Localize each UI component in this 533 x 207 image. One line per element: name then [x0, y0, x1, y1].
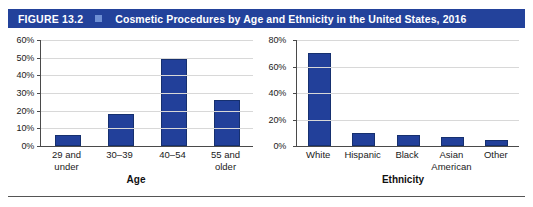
figure-number: FIGURE 13.2 — [18, 13, 83, 25]
y-axis-tick — [37, 40, 41, 41]
y-tick-label: 0% — [273, 141, 286, 151]
y-axis-tick — [37, 75, 41, 76]
chart-age: 0%10%20%30%40%50%60% 29 and under30–3940… — [10, 34, 260, 189]
y-axis-tick — [293, 93, 297, 94]
bar[interactable] — [352, 133, 375, 146]
y-tick-label: 10% — [17, 123, 34, 133]
figure-header: FIGURE 13.2 Cosmetic Procedures by Age a… — [8, 9, 525, 28]
y-tick-label: 40% — [269, 88, 286, 98]
y-tick-label: 20% — [17, 106, 34, 116]
y-tick-label: 40% — [17, 70, 34, 80]
y-axis-tick — [37, 93, 41, 94]
y-tick-label: 80% — [269, 35, 286, 45]
gridline — [41, 128, 253, 129]
y-axis-tick — [293, 67, 297, 68]
gridline — [41, 93, 253, 94]
bar[interactable] — [161, 59, 187, 146]
bar[interactable] — [55, 135, 81, 146]
x-axis-title-age: Age — [30, 174, 242, 185]
bar[interactable] — [441, 137, 464, 146]
chart-ethnicity: 0%20%40%60%80% WhiteHispanicBlackAsian A… — [262, 34, 528, 189]
gridline — [41, 75, 253, 76]
bar[interactable] — [397, 135, 420, 146]
y-tick-label: 20% — [269, 115, 286, 125]
y-axis-tick — [293, 40, 297, 41]
figure-title: Cosmetic Procedures by Age and Ethnicity… — [115, 13, 466, 25]
y-tick-label: 50% — [17, 53, 34, 63]
plot-area-ethnicity — [296, 40, 519, 147]
plot-area-age — [40, 40, 253, 147]
y-axis-tick — [37, 111, 41, 112]
gridline — [41, 40, 253, 41]
gridline — [297, 93, 519, 94]
x-axis-title-ethnicity: Ethnicity — [292, 174, 514, 185]
y-tick-label: 0% — [21, 141, 34, 151]
gridline — [297, 67, 519, 68]
y-axis-tick — [37, 128, 41, 129]
y-tick-label: 60% — [17, 35, 34, 45]
y-axis-tick — [293, 120, 297, 121]
y-tick-label: 60% — [269, 62, 286, 72]
bar[interactable] — [108, 114, 134, 146]
bar[interactable] — [485, 140, 508, 146]
charts-row: 0%10%20%30%40%50%60% 29 and under30–3940… — [0, 34, 533, 189]
bar[interactable] — [214, 100, 240, 146]
gridline — [41, 111, 253, 112]
y-axis-labels-age: 0%10%20%30%40%50%60% — [10, 34, 38, 146]
y-axis-tick — [37, 58, 41, 59]
square-marker-icon — [95, 15, 102, 22]
figure-container: FIGURE 13.2 Cosmetic Procedures by Age a… — [0, 0, 533, 207]
gridline — [41, 58, 253, 59]
y-axis-labels-ethnicity: 0%20%40%60%80% — [262, 34, 290, 146]
gridline — [297, 40, 519, 41]
gridline — [297, 120, 519, 121]
figure-bottom-rule — [8, 196, 525, 197]
y-tick-label: 30% — [17, 88, 34, 98]
